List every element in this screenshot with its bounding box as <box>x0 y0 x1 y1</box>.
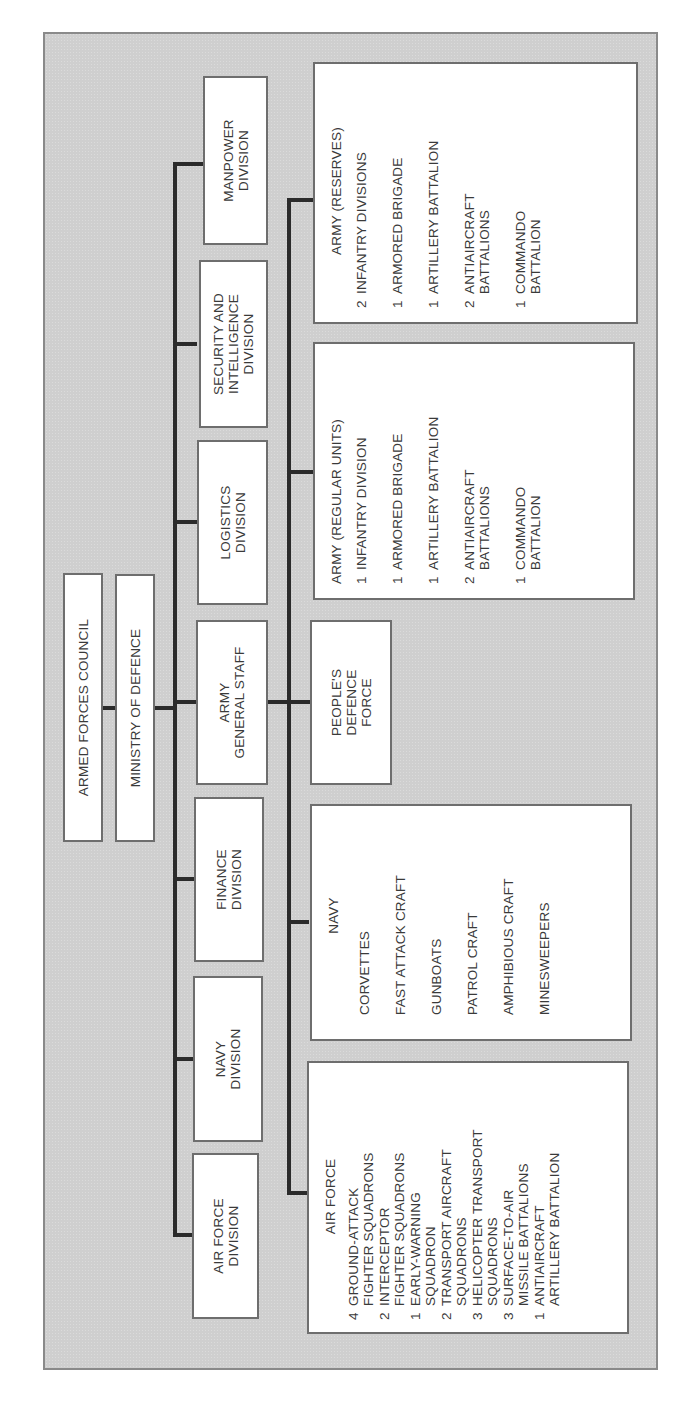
air-force-division-label: AIR FORCE DIVISION <box>211 1198 241 1273</box>
list-item: PATROL CRAFT <box>465 816 480 1015</box>
manpower-division-label: MANPOWER DIVISION <box>221 119 251 202</box>
army-general-staff-box: ARMY GENERAL STAFF <box>196 620 268 785</box>
list-item: 2INFANTRY DIVISIONS <box>354 74 369 308</box>
list-item: AMPHIBIOUS CRAFT <box>501 816 516 1015</box>
security-intelligence-division-label: SECURITY AND INTELLIGENCE DIVISION <box>211 293 256 395</box>
list-item: FAST ATTACK CRAFT <box>393 816 408 1015</box>
stub-navy <box>287 920 309 924</box>
armed-forces-council-label: ARMED FORCES COUNCIL <box>76 619 91 796</box>
connector-ministry-trunk <box>155 706 175 710</box>
air-force-division-box: AIR FORCE DIVISION <box>192 1153 259 1319</box>
stub-air-force <box>287 1191 309 1195</box>
navy-division-label: NAVY DIVISION <box>213 1029 243 1090</box>
security-intelligence-division-box: SECURITY AND INTELLIGENCE DIVISION <box>199 260 268 428</box>
ministry-of-defence-label: MINISTRY OF DEFENCE <box>128 629 143 788</box>
peoples-defence-force-label: PEOPLE'S DEFENCE FORCE <box>329 669 374 736</box>
air-force-title: AIR FORCE <box>323 1073 338 1320</box>
stub-army-general-staff <box>173 700 197 704</box>
stub-manpower-division <box>173 162 205 166</box>
army-general-staff-label: ARMY GENERAL STAFF <box>217 646 247 758</box>
list-item: 1INFANTRY DIVISION <box>354 354 369 584</box>
connector-council-ministry <box>103 706 115 710</box>
list-item: 3SURFACE-TO-AIR MISSILE BATTALIONS <box>501 1073 531 1320</box>
org-chart: ARMED FORCES COUNCIL MINISTRY OF DEFENCE… <box>0 0 676 1414</box>
stub-logistics-division <box>173 520 197 524</box>
list-item: GUNBOATS <box>429 816 444 1015</box>
list-item: 1ANTIAIRCRAFT ARTILLERY BATTALION <box>532 1073 562 1320</box>
manpower-division-box: MANPOWER DIVISION <box>203 76 268 245</box>
logistics-division-box: LOGISTICS DIVISION <box>197 440 268 605</box>
army-regular-title: ARMY (REGULAR UNITS) <box>329 354 344 584</box>
ministry-of-defence-box: MINISTRY OF DEFENCE <box>115 574 155 842</box>
navy-box: NAVY CORVETTES FAST ATTACK CRAFT GUNBOAT… <box>310 804 632 1041</box>
finance-division-label: FINANCE DIVISION <box>214 849 244 910</box>
list-item: 4GROUND-ATTACK FIGHTER SQUADRONS <box>346 1073 376 1320</box>
army-reserves-box: ARMY (RESERVES) 2INFANTRY DIVISIONS 1ARM… <box>313 62 638 324</box>
list-item: 1ARTILLERY BATTALION <box>426 354 441 584</box>
navy-title: NAVY <box>326 816 341 1015</box>
peoples-defence-force-box: PEOPLE'S DEFENCE FORCE <box>310 620 392 785</box>
stub-security-division <box>173 342 197 346</box>
forces-trunk <box>287 198 291 1195</box>
air-force-box: AIR FORCE 4GROUND-ATTACK FIGHTER SQUADRO… <box>307 1061 629 1334</box>
armed-forces-council-box: ARMED FORCES COUNCIL <box>63 573 103 842</box>
stub-army-reserves <box>287 198 313 202</box>
stub-army-regular <box>287 470 313 474</box>
list-item: CORVETTES <box>357 816 372 1015</box>
list-item: 1COMMANDO BATTALION <box>513 74 543 308</box>
list-item: 1COMMANDO BATTALION <box>513 354 543 584</box>
list-item: 2TRANSPORT AIRCRAFT SQUADRONS <box>439 1073 469 1320</box>
list-item: 3HELICOPTER TRANSPORT SQUADRONS <box>470 1073 500 1320</box>
finance-division-box: FINANCE DIVISION <box>194 797 264 962</box>
list-item: 1ARMORED BRIGADE <box>390 354 405 584</box>
list-item: 2ANTIAIRCRAFT BATTALIONS <box>462 354 492 584</box>
army-regular-box: ARMY (REGULAR UNITS) 1INFANTRY DIVISION … <box>313 342 635 600</box>
army-reserves-title: ARMY (RESERVES) <box>329 74 344 308</box>
list-item: 1ARMORED BRIGADE <box>390 74 405 308</box>
list-item: 2ANTIAIRCRAFT BATTALIONS <box>462 74 492 308</box>
list-item: 2INTERCEPTOR FIGHTER SQUADRONS <box>377 1073 407 1320</box>
navy-division-box: NAVY DIVISION <box>193 976 263 1142</box>
list-item: 1ARTILLERY BATTALION <box>426 74 441 308</box>
list-item: 1EARLY-WARNING SQUADRON <box>408 1073 438 1320</box>
logistics-division-label: LOGISTICS DIVISION <box>218 486 248 560</box>
list-item: MINESWEEPERS <box>537 816 552 1015</box>
